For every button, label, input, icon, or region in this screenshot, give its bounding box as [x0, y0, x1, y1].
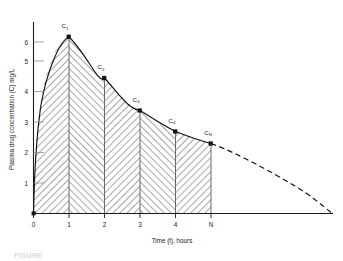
- y-tick-label-2: 2: [24, 149, 28, 156]
- pk-auc-chart: 1 2 3 4 5 6 0 1 2 3 4 N C1 C2: [0, 0, 343, 261]
- data-point-cn: [209, 141, 213, 145]
- x-tick-label-N: N: [209, 221, 214, 228]
- point-label-c3: C3: [133, 96, 140, 105]
- x-axis-tick-labels: 0 1 2 3 4 N: [32, 221, 214, 228]
- y-tick-label-1: 1: [24, 180, 28, 187]
- data-point-origin: [32, 211, 36, 215]
- figure-caption: FIGURE: [14, 252, 42, 259]
- point-label-c1: C1: [62, 22, 69, 31]
- y-tick-label-5: 5: [24, 58, 28, 65]
- x-tick-label-3: 3: [138, 221, 142, 228]
- data-point-c3: [138, 108, 142, 112]
- x-tick-label-4: 4: [174, 221, 178, 228]
- data-point-c4: [173, 129, 177, 133]
- point-label-c4: C4: [169, 117, 176, 126]
- x-tick-label-0: 0: [32, 221, 36, 228]
- x-tick-label-1: 1: [67, 221, 71, 228]
- figure-caption-strip: FIGURE: [0, 251, 343, 261]
- y-axis-tick-labels: 1 2 3 4 5 6: [24, 39, 28, 187]
- y-tick-label-6: 6: [24, 39, 28, 46]
- x-axis-title: Time (t), hours: [152, 237, 193, 245]
- data-point-c2: [102, 76, 106, 80]
- x-tick-label-2: 2: [103, 221, 107, 228]
- y-axis-title: Plasma drug concentration (C) mg/L: [8, 68, 16, 170]
- point-label-c2: C2: [98, 63, 105, 72]
- data-point-c1: [67, 35, 71, 39]
- x-axis-ticks: [34, 214, 212, 219]
- y-tick-label-3: 3: [24, 119, 28, 126]
- auc-shaded-area: [34, 30, 212, 214]
- y-tick-label-4: 4: [24, 88, 28, 95]
- point-label-cn: CN: [204, 129, 212, 138]
- extrapolated-tail: [211, 144, 331, 213]
